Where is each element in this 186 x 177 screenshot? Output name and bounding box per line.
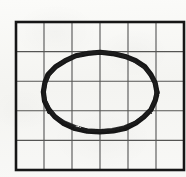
geometry-figure: Hand-drawn ellipse on a ruled grid [0, 0, 186, 177]
figure-canvas: Hand-drawn ellipse on a ruled grid [0, 0, 186, 177]
